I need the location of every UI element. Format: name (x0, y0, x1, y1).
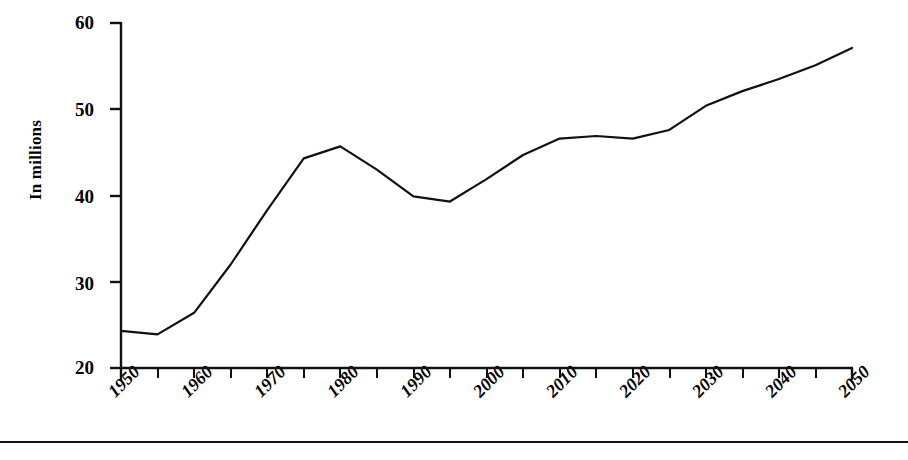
data-series-line (121, 48, 852, 334)
x-axis (121, 368, 853, 380)
plot-area (0, 0, 908, 460)
y-axis (110, 22, 121, 369)
bottom-divider-rule (0, 441, 908, 443)
chart-figure: In millions 60 50 40 30 20 1950 1960 197… (0, 0, 908, 460)
